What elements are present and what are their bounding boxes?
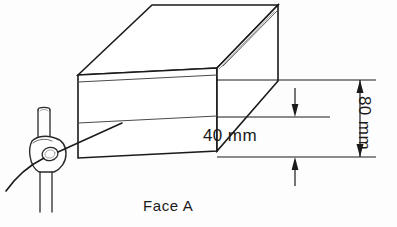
dimension-label-40mm: 40 mm <box>203 126 257 146</box>
dimension-40mm <box>292 88 299 186</box>
dim40-arrow-lower <box>292 157 299 170</box>
technical-drawing-svg <box>0 0 397 227</box>
dimension-label-80mm: 80 mm <box>354 96 374 150</box>
dim80-arrow-top <box>357 80 364 93</box>
gauge-post-lower <box>40 172 52 212</box>
gauge-post-top-cap-inner <box>40 110 48 112</box>
drawing-canvas: 40 mm 80 mm Face A <box>0 0 397 227</box>
face-a-label: Face A <box>143 197 193 214</box>
dim40-arrow-upper <box>292 104 299 117</box>
